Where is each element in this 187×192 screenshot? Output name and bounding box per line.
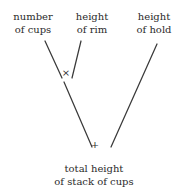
input-label-height-of-rim: height of rim — [62, 11, 122, 36]
result-label-total-height-line1: total height — [28, 163, 160, 176]
input-label-number-of-cups-line2: of cups — [2, 24, 64, 37]
result-label-total-height-line2: of stack of cups — [28, 176, 160, 189]
diagram-canvas: number of cups height of rim height of h… — [0, 0, 187, 192]
edge-rim-to-times — [72, 41, 81, 78]
result-label-total-height: total height of stack of cups — [28, 163, 160, 188]
edge-hold-to-plus — [111, 44, 157, 147]
edge-times-to-plus — [64, 82, 92, 147]
input-label-height-of-hold-line1: height — [124, 11, 184, 24]
add-operator-icon: + — [89, 140, 101, 150]
input-label-height-of-rim-line2: of rim — [62, 24, 122, 37]
multiply-operator-icon: × — [60, 68, 72, 78]
input-label-number-of-cups-line1: number — [2, 11, 64, 24]
input-label-height-of-rim-line1: height — [62, 11, 122, 24]
input-label-number-of-cups: number of cups — [2, 11, 64, 36]
input-label-height-of-hold: height of hold — [124, 11, 184, 36]
input-label-height-of-hold-line2: of hold — [124, 24, 184, 37]
